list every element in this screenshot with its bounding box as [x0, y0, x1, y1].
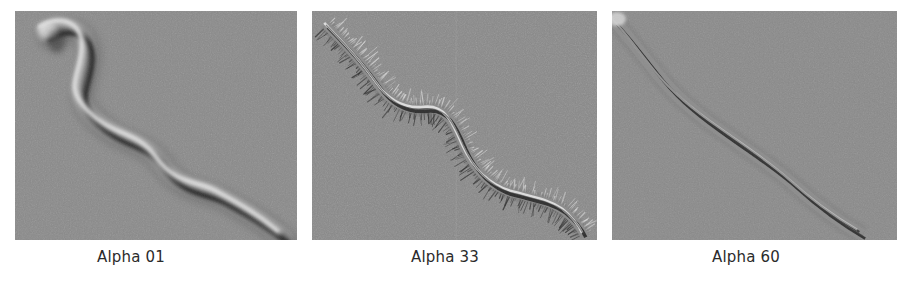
worm-thin-sharp-icon [612, 11, 897, 240]
panel-caption-alpha-60: Alpha 60 [712, 247, 780, 267]
micrograph-panel-alpha-01[interactable] [15, 11, 297, 240]
worm-smooth-thick-icon [15, 11, 297, 240]
micrograph-panel-alpha-60[interactable] [612, 11, 897, 240]
panel-caption-alpha-33: Alpha 33 [411, 247, 479, 267]
micrograph-figure: Alpha 01 Alpha 33 Alpha 60 [0, 0, 912, 283]
worm-bristled-icon [312, 11, 597, 240]
micrograph-panel-alpha-33[interactable] [312, 11, 597, 240]
panel-caption-alpha-01: Alpha 01 [97, 247, 165, 267]
